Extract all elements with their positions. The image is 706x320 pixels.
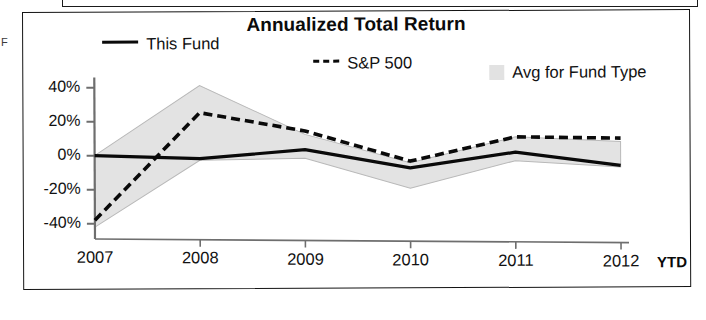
x-axis-ytd-label: YTD — [657, 253, 687, 270]
x-axis-tick-label: 2007 — [63, 248, 127, 267]
x-axis-tick-label: 2012 — [589, 251, 653, 270]
x-axis-tick-label: 2008 — [168, 249, 232, 268]
y-axis-tick-label: 0% — [19, 146, 81, 164]
y-axis-tick-label: -40% — [19, 214, 81, 232]
y-axis-tick-label: 40% — [18, 78, 80, 96]
adjacent-panel-border-fragment — [62, 0, 698, 7]
y-axis-tick-label: 20% — [18, 112, 80, 130]
x-axis-tick-label: 2010 — [379, 250, 443, 269]
adjacent-text-fragment: F — [1, 36, 9, 48]
annualized-total-return-chart-panel: Annualized Total Return This Fund S&P 50… — [22, 9, 691, 290]
x-axis-tick-label: 2011 — [484, 251, 548, 270]
y-axis-tick-label: -20% — [19, 180, 81, 198]
x-axis-tick-label: 2009 — [273, 249, 337, 268]
